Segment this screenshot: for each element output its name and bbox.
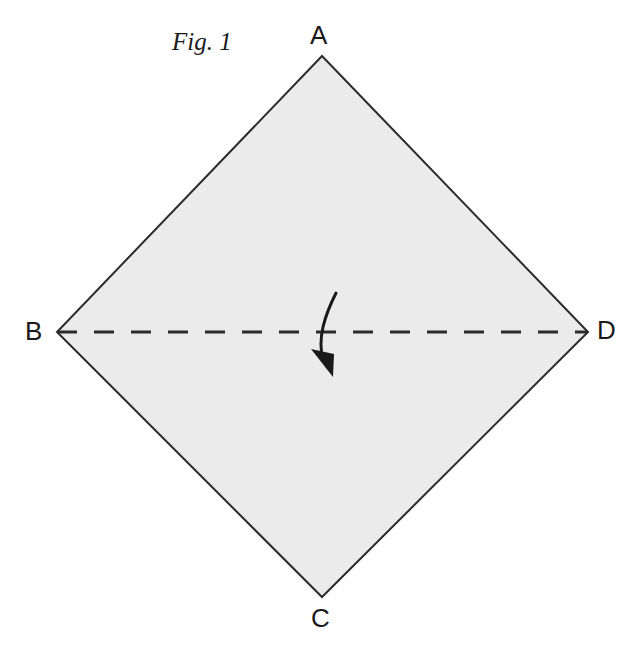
vertex-label-c: C bbox=[311, 605, 330, 631]
figure-caption: Fig. 1 bbox=[172, 29, 232, 54]
vertex-label-b: B bbox=[25, 318, 42, 344]
vertex-label-d: D bbox=[597, 317, 616, 343]
vertex-label-a: A bbox=[310, 22, 327, 48]
figure-drawing-canvas bbox=[0, 0, 634, 653]
figure-container: Fig. 1 A B C D bbox=[0, 0, 634, 653]
